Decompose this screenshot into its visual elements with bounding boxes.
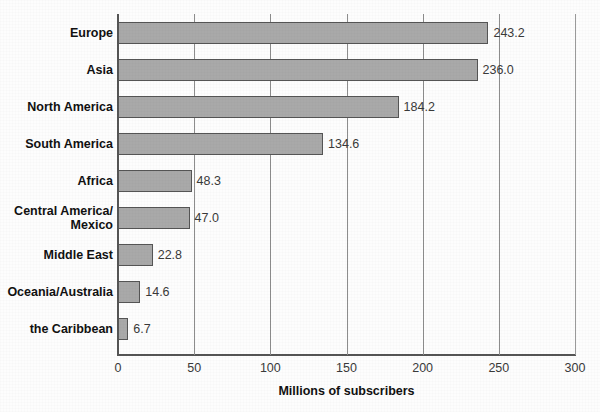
bar-value-label: 243.2 bbox=[493, 23, 524, 43]
bar-chart: EuropeAsiaNorth AmericaSouth AmericaAfri… bbox=[0, 0, 600, 412]
x-tick-label-300: 300 bbox=[555, 361, 595, 375]
category-label: Oceania/Australia bbox=[1, 285, 113, 299]
bar-row: 236.0 bbox=[118, 52, 575, 89]
bar bbox=[118, 96, 399, 118]
bar bbox=[118, 244, 153, 266]
bar bbox=[118, 133, 323, 155]
bar-row: 14.6 bbox=[118, 274, 575, 311]
category-label: Europe bbox=[1, 26, 113, 40]
x-tick-label-150: 150 bbox=[327, 361, 367, 375]
bar bbox=[118, 22, 488, 44]
bar-value-label: 48.3 bbox=[197, 171, 221, 191]
x-tick-label-50: 50 bbox=[174, 361, 214, 375]
bar bbox=[118, 170, 192, 192]
plot-area: 243.2236.0184.2134.648.347.022.814.66.7 bbox=[118, 14, 575, 355]
bar-value-label: 47.0 bbox=[195, 208, 219, 228]
bar bbox=[118, 207, 190, 229]
bar-row: 47.0 bbox=[118, 200, 575, 237]
bar-row: 6.7 bbox=[118, 311, 575, 348]
x-tick-label-0: 0 bbox=[98, 361, 138, 375]
x-tick-label-100: 100 bbox=[250, 361, 290, 375]
category-label: Central America/ Mexico bbox=[1, 204, 113, 232]
bar bbox=[118, 281, 140, 303]
bar-row: 134.6 bbox=[118, 126, 575, 163]
bar-value-label: 236.0 bbox=[483, 60, 514, 80]
category-label: Africa bbox=[1, 174, 113, 188]
bar bbox=[118, 59, 478, 81]
gridline-300 bbox=[575, 14, 576, 355]
category-label: the Caribbean bbox=[1, 322, 113, 336]
bar-value-label: 6.7 bbox=[133, 319, 150, 339]
bar-row: 243.2 bbox=[118, 15, 575, 52]
category-axis-labels: EuropeAsiaNorth AmericaSouth AmericaAfri… bbox=[0, 14, 113, 355]
bar-value-label: 184.2 bbox=[404, 97, 435, 117]
bar-row: 184.2 bbox=[118, 89, 575, 126]
bar bbox=[118, 318, 128, 340]
x-tick-label-250: 250 bbox=[479, 361, 519, 375]
bar-value-label: 134.6 bbox=[328, 134, 359, 154]
category-label: North America bbox=[1, 100, 113, 114]
bar-row: 22.8 bbox=[118, 237, 575, 274]
category-label: Middle East bbox=[1, 248, 113, 262]
category-label: South America bbox=[1, 137, 113, 151]
x-tick-label-200: 200 bbox=[403, 361, 443, 375]
x-axis-title: Millions of subscribers bbox=[118, 384, 575, 398]
bar-value-label: 22.8 bbox=[158, 245, 182, 265]
bar-row: 48.3 bbox=[118, 163, 575, 200]
bar-value-label: 14.6 bbox=[145, 282, 169, 302]
category-label: Asia bbox=[1, 63, 113, 77]
